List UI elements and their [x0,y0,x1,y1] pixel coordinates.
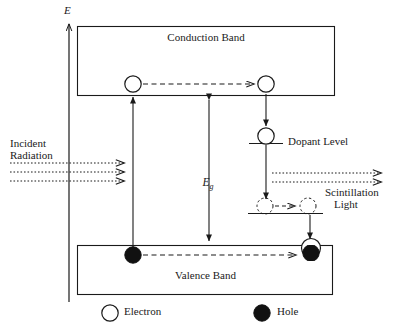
dopant-electron [258,128,274,144]
virtual-carrier-left-circle [257,198,273,214]
incident-radiation-label-line2: Radiation [10,150,53,162]
scintillation-light-rays [272,173,381,182]
virtual-carrier-right-circle [300,198,316,214]
conduction-band-label: Conduction Band [78,32,334,44]
legend-label-hole: Hole [277,306,298,318]
band-gap-label: Eg [191,164,214,205]
valence-band-label: Valence Band [78,270,333,282]
dopant-level-label: Dopant Level [288,136,348,148]
band-gap-label-symbol: E [203,176,210,188]
legend-electron-symbol [102,305,118,321]
valence-hole [125,247,141,263]
recombination-electron-hole-pair [302,239,321,262]
figure-canvas: E Conduction Band Valence Band Dopant Le… [0,0,398,332]
band-gap-label-subscript: g [210,183,214,192]
scintillation-light-label-line2: Light [334,199,358,211]
energy-axis-label: E [64,5,71,17]
conduction-electron-right [258,76,274,92]
legend-hole-symbol [254,305,270,321]
conduction-electron-left [125,76,141,92]
incident-radiation-rays [10,163,124,181]
legend-label-electron: Electron [124,306,161,318]
